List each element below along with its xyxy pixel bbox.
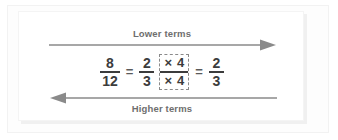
middle-fraction: 2 3	[139, 56, 154, 88]
multiplier-denominator-line: × 4	[162, 73, 186, 89]
higher-terms-label: Higher terms	[19, 103, 305, 114]
lower-terms-arrow-row	[19, 38, 305, 52]
multiplier-numerator-line: × 4	[162, 55, 186, 71]
equals-sign-1: =	[125, 64, 135, 79]
diagram-card: Lower terms 8 12 = 2 3 ×	[18, 11, 304, 121]
diagram-canvas: Lower terms 8 12 = 2 3 ×	[0, 0, 338, 140]
fraction-equation: 8 12 = 2 3 × 4 × 4 =	[19, 54, 305, 90]
arrow-right-icon	[49, 38, 277, 52]
multiplier-value-bottom: 4	[177, 74, 184, 88]
multiplier-value-top: 4	[177, 56, 184, 70]
multiply-symbol-top: ×	[164, 56, 172, 70]
left-fraction-numerator: 8	[104, 56, 116, 71]
right-fraction: 2 3	[209, 56, 224, 88]
left-fraction: 8 12	[100, 56, 120, 88]
middle-fraction-numerator: 2	[141, 56, 153, 71]
equals-sign-2: =	[194, 64, 204, 79]
left-fraction-denominator: 12	[100, 73, 120, 88]
right-fraction-denominator: 3	[210, 73, 222, 88]
multiplier-dashed-box: × 4 × 4	[159, 54, 189, 90]
multiply-symbol-bottom: ×	[164, 74, 172, 88]
right-fraction-numerator: 2	[210, 56, 222, 71]
middle-fraction-denominator: 3	[141, 73, 153, 88]
